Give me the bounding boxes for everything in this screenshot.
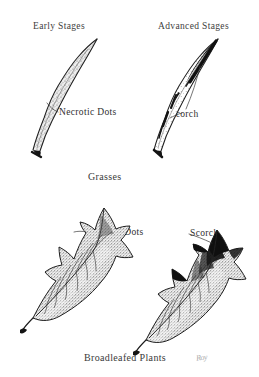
section-title-broadleafed-plants: Broadleafed Plants <box>84 353 166 363</box>
callout-leaf-scorch: Scorch <box>190 229 218 239</box>
specimen-broadleaf-advanced <box>133 222 256 355</box>
leader-line-leaf-necrotic <box>74 231 86 232</box>
specimen-broadleaf-early <box>20 200 143 333</box>
leader-line-grass-scorch-tip <box>186 66 200 109</box>
heading-advanced-stages: Advanced Stages <box>158 22 229 32</box>
leader-line-grass-necrotic <box>47 103 58 112</box>
artist-signature: Roy <box>195 352 207 362</box>
callout-grass-scorch: Scorch <box>170 110 198 120</box>
callout-grass-necrotic-dots: Necrotic Dots <box>59 108 117 118</box>
illustration-layer <box>0 0 259 377</box>
specimen-grass-blade-early <box>25 30 115 160</box>
specimen-grass-blade-advanced <box>146 30 236 160</box>
heading-early-stages: Early Stages <box>33 22 85 32</box>
leaf-scorch-figure: Early Stages Advanced Stages Grasses Bro… <box>0 0 259 377</box>
section-title-grasses: Grasses <box>88 172 122 182</box>
callout-leaf-necrotic-dots: Necrotic Dots <box>86 228 144 238</box>
